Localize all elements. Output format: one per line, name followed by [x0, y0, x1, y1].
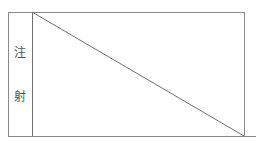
label-char-2: 射 — [8, 90, 32, 104]
label-char-1: 注 — [8, 46, 32, 60]
diagonal-line — [32, 12, 244, 136]
diagram-canvas — [0, 0, 256, 142]
